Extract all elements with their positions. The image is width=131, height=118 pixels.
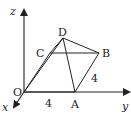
diagram-canvas: z y x O A B C D 4 4 [0,0,131,118]
point-A-label: A [70,98,80,111]
edge-DC [50,38,63,53]
edge-DB [63,38,99,53]
point-B-label: B [102,47,110,60]
measure-AB-label: 4 [91,72,98,85]
measure-OA-label: 4 [45,97,52,110]
x-axis-label: x [2,101,9,114]
edge-DA [63,38,75,92]
z-axis-label: z [9,5,16,18]
y-axis-label: y [121,100,129,113]
point-C-label: C [36,47,44,60]
point-D-label: D [58,26,67,39]
point-O-label: O [13,86,22,99]
